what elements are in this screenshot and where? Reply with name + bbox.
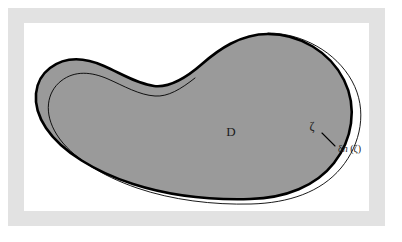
label-domain-d: D [226,124,235,139]
domain-perturbation-diagram: D ζ δn (ζ) [0,0,402,242]
label-zeta-argument: (ζ) [348,143,361,155]
domain-region [36,34,352,199]
label-boundary-point-zeta: ζ [310,119,315,133]
svg-text:δn (ζ): δn (ζ) [338,143,361,155]
label-normal-displacement: δn (ζ) [338,143,361,155]
figure-root: D ζ δn (ζ) [0,0,402,242]
